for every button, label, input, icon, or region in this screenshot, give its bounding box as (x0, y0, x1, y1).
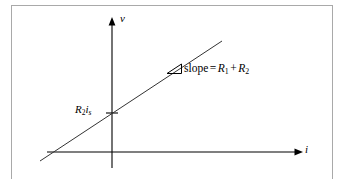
slope-word: slope (184, 62, 208, 74)
v-axis-label-text: v (120, 12, 125, 24)
intercept-label: R2is (75, 104, 91, 117)
v-axis-group (109, 17, 116, 168)
figure-root: v i R2is slope=R1+R2 (0, 0, 344, 179)
v-axis-label: v (120, 13, 125, 24)
i-axis-label-text: i (305, 143, 308, 155)
v-axis-arrowhead (109, 17, 116, 26)
plot-canvas (0, 0, 344, 179)
intercept-label-i-subscript: s (89, 108, 92, 117)
slope-term-1-R: R (218, 62, 225, 74)
slope-equals-sign: = (208, 62, 218, 74)
slope-annotation: slope=R1+R2 (184, 63, 249, 76)
slope-term-2-subscript: 2 (245, 67, 249, 76)
i-axis-label: i (305, 144, 308, 155)
characteristic-line (40, 41, 222, 161)
i-axis-group (47, 149, 303, 156)
i-axis-arrowhead (295, 149, 304, 156)
slope-plus-sign: + (229, 62, 239, 74)
intercept-label-R: R (75, 103, 82, 115)
